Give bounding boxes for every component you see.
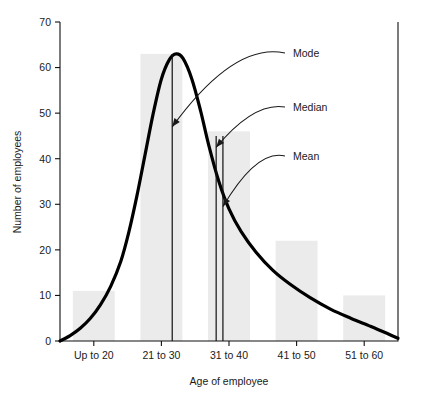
employee-age-distribution-chart: 010203040506070 Up to 2021 to 3031 to 40… <box>0 0 426 399</box>
y-tick-label-70: 70 <box>39 16 51 28</box>
y-tick-label-50: 50 <box>39 107 51 119</box>
x-tick-label-31-to-40: 31 to 40 <box>210 349 248 361</box>
bar-41-to-50 <box>276 241 318 341</box>
x-axis-title: Age of employee <box>190 375 269 387</box>
bar-21-to-30 <box>140 54 182 341</box>
y-axis-title: Number of employees <box>11 131 23 234</box>
annotation-label-mean: Mean <box>293 150 319 162</box>
y-tick-label-0: 0 <box>45 335 51 347</box>
y-axis-tick-labels: 010203040506070 <box>39 16 51 347</box>
annotation-label-median: Median <box>293 101 328 113</box>
y-tick-label-10: 10 <box>39 289 51 301</box>
y-axis-ticks <box>55 22 60 341</box>
x-tick-label-21-to-30: 21 to 30 <box>142 349 180 361</box>
x-tick-label-up-to-20: Up to 20 <box>74 349 114 361</box>
annotation-label-mode: Mode <box>293 47 319 59</box>
y-tick-label-20: 20 <box>39 244 51 256</box>
x-tick-label-41-to-50: 41 to 50 <box>278 349 316 361</box>
y-tick-label-60: 60 <box>39 61 51 73</box>
y-tick-label-40: 40 <box>39 153 51 165</box>
chart-container: 010203040506070 Up to 2021 to 3031 to 40… <box>0 0 426 399</box>
y-tick-label-30: 30 <box>39 198 51 210</box>
x-axis-tick-labels: Up to 2021 to 3031 to 4041 to 5051 to 60 <box>74 349 383 361</box>
x-axis-ticks <box>94 341 364 346</box>
x-tick-label-51-to-60: 51 to 60 <box>345 349 383 361</box>
